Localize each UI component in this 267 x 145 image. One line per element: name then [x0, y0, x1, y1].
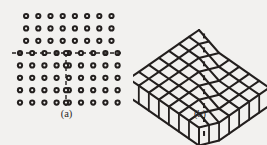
atom-lower — [115, 100, 121, 106]
atom-core — [49, 27, 51, 29]
atom-upper — [96, 13, 102, 19]
atom-core — [19, 64, 21, 66]
atom-core — [92, 89, 94, 91]
atom-upper — [35, 38, 41, 44]
atom-lower — [17, 62, 23, 68]
atom-lower — [41, 100, 47, 106]
atom-dislocation-core — [63, 62, 69, 68]
atom-core — [74, 15, 76, 17]
atom-core — [104, 89, 106, 91]
panel-b-3d-lattice: (b) — [133, 0, 267, 145]
atom-upper — [23, 13, 29, 19]
atom-core — [86, 15, 88, 17]
atom-core — [65, 64, 67, 66]
atom-core — [31, 52, 33, 54]
atom-core — [80, 89, 82, 91]
atom-core — [104, 64, 106, 66]
atom-core — [31, 77, 33, 79]
atom-upper — [96, 38, 102, 44]
atom-upper — [47, 38, 53, 44]
atom-core — [62, 27, 64, 29]
atom-upper — [84, 25, 90, 31]
atom-core — [92, 64, 94, 66]
atom-upper — [108, 25, 114, 31]
atom-lower — [115, 87, 121, 93]
atom-core — [110, 40, 112, 42]
atom-upper — [84, 13, 90, 19]
atom-lower — [17, 75, 23, 81]
atom-lower — [78, 62, 84, 68]
atom-upper — [23, 38, 29, 44]
atom-lower — [41, 75, 47, 81]
atom-array — [17, 13, 121, 106]
atom-upper — [60, 25, 66, 31]
atom-upper — [84, 38, 90, 44]
atom-core — [25, 15, 27, 17]
atom-upper — [47, 25, 53, 31]
panel-a-caption: (a) — [0, 108, 133, 119]
atom-core — [104, 77, 106, 79]
atom-lower — [115, 62, 121, 68]
atom-core — [31, 102, 33, 104]
atom-core — [37, 40, 39, 42]
atom-core — [98, 27, 100, 29]
panel-b-caption: (b) — [133, 108, 267, 119]
atom-core — [43, 64, 45, 66]
atom-lower — [102, 62, 108, 68]
atom-core — [104, 102, 106, 104]
atom-dislocation-core — [63, 100, 69, 106]
atom-core — [31, 64, 33, 66]
atom-core — [80, 64, 82, 66]
atom-core — [86, 27, 88, 29]
atom-lower — [102, 100, 108, 106]
atom-lower — [102, 87, 108, 93]
atom-upper — [72, 38, 78, 44]
atom-core — [80, 52, 82, 54]
atom-core — [19, 102, 21, 104]
lattice-2d-diagram — [0, 0, 133, 145]
atom-lower — [78, 87, 84, 93]
atom-upper — [47, 13, 53, 19]
atom-core — [92, 102, 94, 104]
atom-core — [62, 40, 64, 42]
figure-root: (a) (b) — [0, 0, 267, 145]
atom-core — [43, 102, 45, 104]
atom-lower — [54, 62, 60, 68]
atom-core — [98, 15, 100, 17]
atom-upper — [108, 38, 114, 44]
atom-lower — [54, 75, 60, 81]
atom-dislocation-core — [63, 50, 69, 56]
atom-lower — [54, 100, 60, 106]
atom-lower — [78, 100, 84, 106]
atom-core — [56, 89, 58, 91]
atom-core — [49, 40, 51, 42]
atom-lower — [29, 75, 35, 81]
atom-core — [31, 89, 33, 91]
atom-core — [68, 77, 70, 79]
atom-core — [43, 89, 45, 91]
lattice-line-v — [199, 30, 267, 88]
atom-upper — [108, 13, 114, 19]
atom-core — [80, 77, 82, 79]
atom-upper — [60, 13, 66, 19]
lattice-3d-diagram — [133, 0, 267, 145]
atom-lower — [102, 75, 108, 81]
atom-core — [56, 77, 58, 79]
atom-dislocation-core — [63, 87, 69, 93]
atom-core — [117, 77, 119, 79]
atom-core — [19, 77, 21, 79]
atom-core — [110, 15, 112, 17]
atom-core — [56, 102, 58, 104]
atom-lower — [90, 87, 96, 93]
atom-upper — [96, 25, 102, 31]
atom-lower — [78, 75, 84, 81]
atom-core — [65, 89, 67, 91]
atom-upper — [35, 13, 41, 19]
atom-lower — [115, 75, 121, 81]
atom-core — [43, 77, 45, 79]
atom-core — [62, 15, 64, 17]
atom-lower — [17, 100, 23, 106]
panel-a-edge-dislocation: (a) — [0, 0, 133, 145]
atom-core — [56, 64, 58, 66]
atom-core — [65, 102, 67, 104]
